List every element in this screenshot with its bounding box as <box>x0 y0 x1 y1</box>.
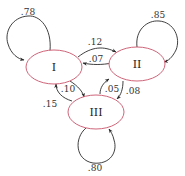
edge-label: .10 <box>61 84 76 94</box>
edge-label: .08 <box>126 86 141 96</box>
markov-chain-diagram: .78 .85 .80 .12 .07 .10 .15 .05 .08 <box>0 0 185 176</box>
node-label: III <box>89 106 102 119</box>
edge-II-to-III: .08 <box>117 81 140 99</box>
node-label: I <box>52 61 56 74</box>
edge-label: .15 <box>43 99 58 109</box>
edge-II-to-I: .07 <box>83 54 112 65</box>
edge-label: .78 <box>21 7 36 17</box>
edge-label: .05 <box>105 84 120 94</box>
edge-III-to-III: .80 <box>78 128 115 173</box>
edge-label: .80 <box>88 163 103 173</box>
edge-label: .07 <box>89 54 104 64</box>
edge-I-to-III: .10 <box>61 81 84 97</box>
node-I: I <box>26 50 82 84</box>
edge-label: .12 <box>88 37 102 47</box>
node-II: II <box>109 47 165 81</box>
edge-III-to-II: .05 <box>100 79 119 94</box>
node-III: III <box>68 95 124 129</box>
edge-label: .85 <box>151 10 166 20</box>
node-label: II <box>133 58 142 71</box>
